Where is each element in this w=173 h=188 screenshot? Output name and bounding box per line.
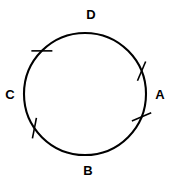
label-d: D bbox=[86, 7, 95, 22]
circle-diagram-canvas: DABC bbox=[0, 0, 173, 188]
label-b: B bbox=[83, 163, 92, 178]
diagram-background bbox=[0, 0, 173, 188]
geometry-figure: DABC bbox=[0, 0, 173, 188]
label-c: C bbox=[5, 87, 15, 102]
label-a: A bbox=[155, 87, 165, 102]
